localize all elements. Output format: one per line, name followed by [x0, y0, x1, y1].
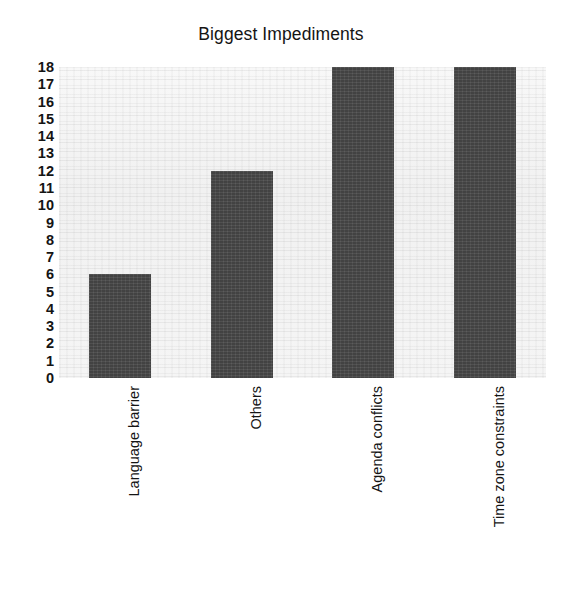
bar: [211, 171, 273, 378]
x-tick-label-text: Time zone constraints: [492, 386, 507, 527]
bar: [332, 67, 394, 378]
y-tick-label: 3: [14, 319, 54, 334]
y-tick-label: 18: [14, 60, 54, 75]
y-tick-label: 1: [14, 353, 54, 368]
y-tick-label: 7: [14, 250, 54, 265]
y-tick-label: 0: [14, 371, 54, 386]
x-tick-label: Language barrier: [127, 386, 142, 496]
bar: [89, 274, 151, 378]
x-tick-label: Others: [249, 386, 264, 430]
x-tick-label: Time zone constraints: [492, 386, 507, 527]
y-axis: 1817161514131211109876543210: [14, 67, 54, 378]
y-tick-label: 15: [14, 112, 54, 127]
x-tick-label-text: Language barrier: [127, 386, 142, 496]
y-tick-label: 13: [14, 146, 54, 161]
x-tick-label-text: Others: [249, 386, 264, 430]
y-tick-label: 17: [14, 77, 54, 92]
y-tick-label: 2: [14, 336, 54, 351]
bar: [454, 67, 516, 378]
y-tick-label: 6: [14, 267, 54, 282]
bar-chart-figure: Biggest Impediments 18171615141312111098…: [0, 0, 562, 611]
y-tick-label: 4: [14, 302, 54, 317]
y-tick-label: 12: [14, 163, 54, 178]
y-tick-label: 9: [14, 215, 54, 230]
x-tick-label-text: Agenda conflicts: [370, 386, 385, 492]
y-tick-label: 14: [14, 129, 54, 144]
y-tick-label: 10: [14, 198, 54, 213]
y-tick-label: 8: [14, 233, 54, 248]
x-tick-label: Agenda conflicts: [370, 386, 385, 492]
chart-title: Biggest Impediments: [0, 24, 562, 45]
x-axis: Language barrierOthersAgenda conflictsTi…: [59, 386, 546, 596]
plot-area: [59, 67, 546, 378]
y-tick-label: 5: [14, 284, 54, 299]
y-tick-label: 16: [14, 94, 54, 109]
y-tick-label: 11: [14, 181, 54, 196]
